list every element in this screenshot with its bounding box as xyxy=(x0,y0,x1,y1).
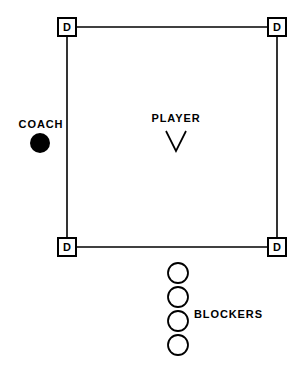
defender-label: D xyxy=(273,241,281,253)
blockers-group: BLOCKERS xyxy=(168,263,263,355)
defender-top-right[interactable]: D xyxy=(268,18,286,36)
defender-label: D xyxy=(63,21,71,33)
blocker-circle-icon[interactable] xyxy=(168,335,188,355)
blocker-circle-icon[interactable] xyxy=(168,287,188,307)
court-outline xyxy=(67,27,277,247)
blockers-label: BLOCKERS xyxy=(194,308,263,320)
player-chevron-icon xyxy=(166,131,186,151)
coach-marker-group[interactable]: COACH xyxy=(19,118,64,153)
player-label: PLAYER xyxy=(151,112,200,124)
blocker-circle-icon[interactable] xyxy=(168,311,188,331)
coach-label: COACH xyxy=(19,118,64,130)
diagram-canvas: D D D D COACH PLAYER xyxy=(0,0,303,377)
defender-bottom-left[interactable]: D xyxy=(58,238,76,256)
defender-top-left[interactable]: D xyxy=(58,18,76,36)
drill-diagram: D D D D COACH PLAYER xyxy=(0,0,303,377)
defender-label: D xyxy=(273,21,281,33)
coach-dot-icon xyxy=(30,133,50,153)
defender-label: D xyxy=(63,241,71,253)
defender-bottom-right[interactable]: D xyxy=(268,238,286,256)
player-marker-group[interactable]: PLAYER xyxy=(151,112,200,151)
blocker-circle-icon[interactable] xyxy=(168,263,188,283)
